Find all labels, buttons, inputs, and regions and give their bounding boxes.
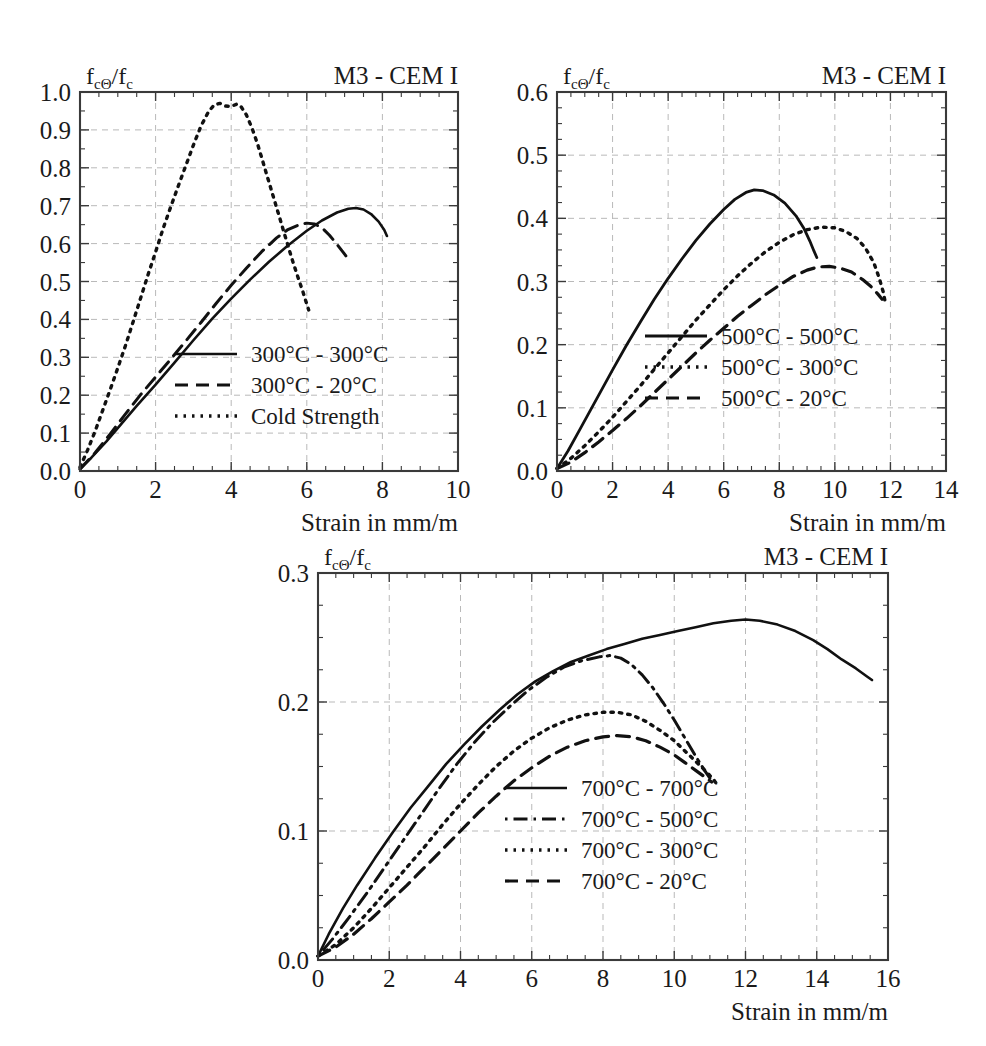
legend-label-2: 500°C - 20°C xyxy=(721,386,847,411)
legend-label-1: 300°C - 20°C xyxy=(251,373,377,398)
x-tick-label: 12 xyxy=(733,965,758,992)
legend-label-0: 700°C - 700°C xyxy=(581,776,718,801)
x-tick-label: 0 xyxy=(551,476,564,503)
y-tick-label: 0.9 xyxy=(40,117,71,144)
corner-label: M3 - CEM I xyxy=(764,543,888,570)
corner-label: M3 - CEM I xyxy=(822,62,946,89)
y-tick-label: 0.3 xyxy=(40,344,71,371)
x-tick-label: 4 xyxy=(454,965,467,992)
y-tick-label: 0.5 xyxy=(40,269,71,296)
legend-label-0: 300°C - 300°C xyxy=(251,342,388,367)
chart-svg-300c: 02468100.00.10.20.30.40.50.60.70.80.91.0… xyxy=(0,24,500,534)
x-tick-label: 8 xyxy=(597,965,610,992)
y-tick-label: 0.1 xyxy=(517,395,548,422)
legend-label-1: 500°C - 300°C xyxy=(721,355,858,380)
corner-label: M3 - CEM I xyxy=(334,62,458,89)
chart-panel-700c: 02468101214160.00.10.20.3Strain in mm/mf… xyxy=(240,520,920,1046)
x-tick-label: 8 xyxy=(773,476,786,503)
y-axis-label: fcΘ/fc xyxy=(563,63,610,92)
legend: 500°C - 500°C500°C - 300°C500°C - 20°C xyxy=(645,324,858,411)
y-tick-label: 0.2 xyxy=(40,382,71,409)
y-tick-label: 0.1 xyxy=(40,420,71,447)
x-tick-label: 0 xyxy=(312,965,325,992)
x-tick-label: 10 xyxy=(446,476,471,503)
x-tick-label: 8 xyxy=(376,476,389,503)
y-tick-label: 0.0 xyxy=(278,947,309,974)
y-tick-label: 0.2 xyxy=(517,332,548,359)
y-tick-label: 0.4 xyxy=(40,306,72,333)
x-tick-label: 12 xyxy=(878,476,903,503)
y-axis-label: fcΘ/fc xyxy=(324,544,371,573)
x-tick-label: 10 xyxy=(662,965,687,992)
y-tick-label: 0.8 xyxy=(40,155,71,182)
x-axis-title: Strain in mm/m xyxy=(731,998,889,1025)
y-axis-label: fcΘ/fc xyxy=(86,63,133,92)
figure-container: 02468100.00.10.20.30.40.50.60.70.80.91.0… xyxy=(0,0,986,1046)
x-tick-label: 2 xyxy=(383,965,396,992)
y-tick-label: 0.6 xyxy=(517,79,548,106)
y-tick-label: 0.2 xyxy=(278,689,309,716)
x-tick-label: 14 xyxy=(804,965,830,992)
legend-label-2: 700°C - 300°C xyxy=(581,838,718,863)
x-tick-label: 0 xyxy=(74,476,87,503)
y-tick-label: 0.3 xyxy=(517,269,548,296)
chart-svg-500c: 024681012140.00.10.20.30.40.50.6Strain i… xyxy=(490,24,986,534)
x-tick-label: 6 xyxy=(526,965,539,992)
y-tick-label: 0.0 xyxy=(517,458,548,485)
x-tick-label: 2 xyxy=(149,476,162,503)
x-tick-label: 4 xyxy=(662,476,675,503)
tick-labels: 02468100.00.10.20.30.40.50.60.70.80.91.0 xyxy=(40,79,471,503)
x-tick-label: 6 xyxy=(301,476,314,503)
tick-labels: 024681012140.00.10.20.30.40.50.6 xyxy=(517,79,959,503)
legend-label-2: Cold Strength xyxy=(251,404,380,429)
series-line-2 xyxy=(318,712,717,956)
x-tick-label: 6 xyxy=(717,476,730,503)
y-tick-label: 0.1 xyxy=(278,818,309,845)
y-tick-label: 0.0 xyxy=(40,458,71,485)
chart-svg-700c: 02468101214160.00.10.20.3Strain in mm/mf… xyxy=(240,520,920,1046)
series-line-1 xyxy=(318,656,710,957)
y-tick-label: 1.0 xyxy=(40,79,71,106)
gridlines xyxy=(318,573,888,960)
y-tick-label: 0.3 xyxy=(278,560,309,587)
chart-panel-500c: 024681012140.00.10.20.30.40.50.6Strain i… xyxy=(490,24,986,534)
legend: 700°C - 700°C700°C - 500°C700°C - 300°C7… xyxy=(505,776,718,894)
legend: 300°C - 300°C300°C - 20°CCold Strength xyxy=(175,342,388,429)
x-tick-label: 16 xyxy=(876,965,901,992)
legend-label-3: 700°C - 20°C xyxy=(581,869,707,894)
legend-label-1: 700°C - 500°C xyxy=(581,807,718,832)
chart-panel-300c: 02468100.00.10.20.30.40.50.60.70.80.91.0… xyxy=(0,24,500,534)
y-tick-label: 0.6 xyxy=(40,231,71,258)
x-tick-label: 2 xyxy=(606,476,619,503)
x-tick-label: 14 xyxy=(934,476,960,503)
x-tick-label: 10 xyxy=(822,476,847,503)
y-tick-label: 0.4 xyxy=(517,205,549,232)
legend-label-0: 500°C - 500°C xyxy=(721,324,858,349)
y-tick-label: 0.5 xyxy=(517,142,548,169)
y-tick-label: 0.7 xyxy=(40,193,71,220)
x-tick-label: 4 xyxy=(225,476,238,503)
